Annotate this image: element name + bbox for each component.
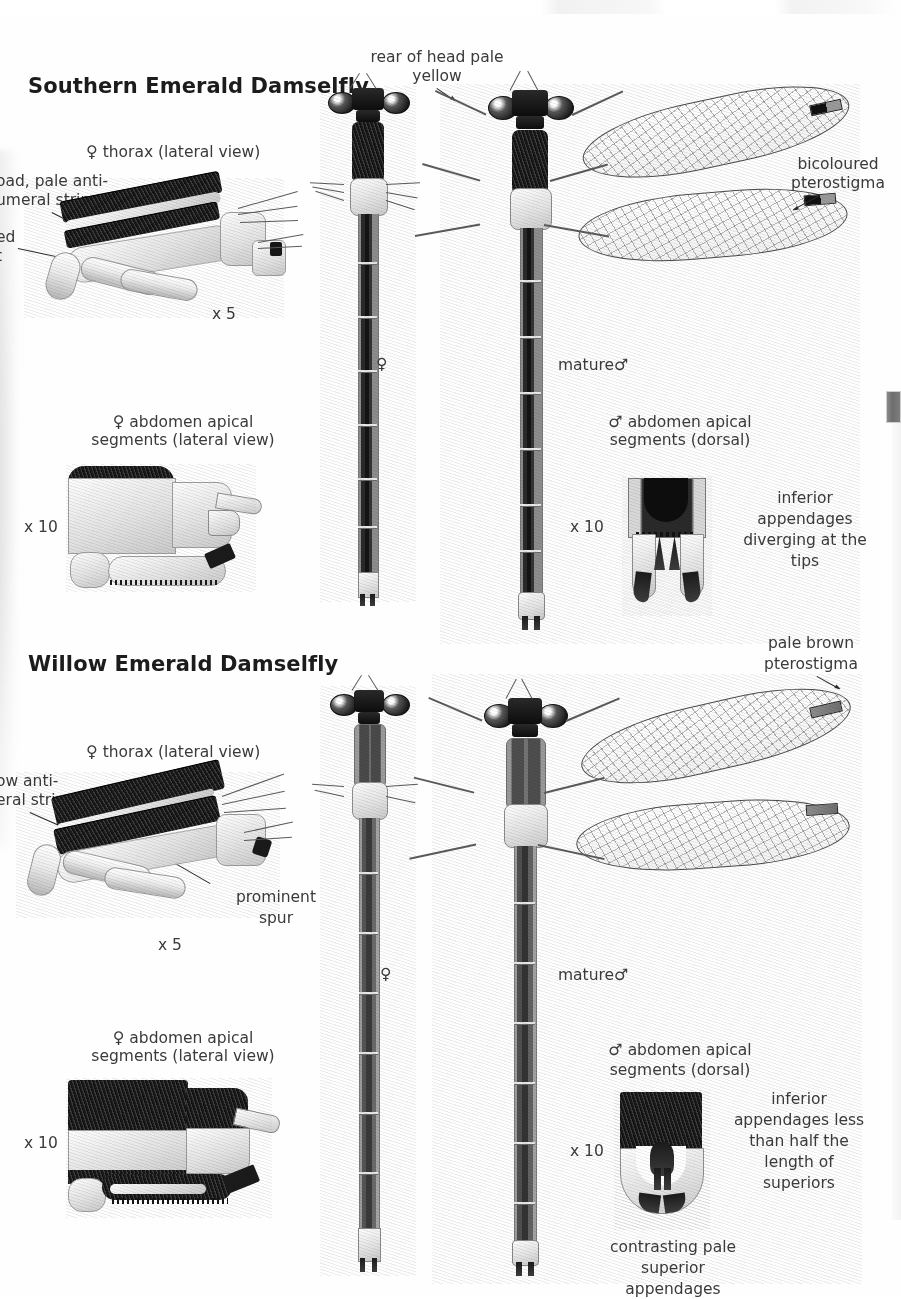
scale-willow-male-apical: x 10 [570, 1142, 604, 1160]
label-rear-of-head-line1: rear of head pale [352, 48, 522, 67]
note-willow-superior-line3: appendages [570, 1280, 776, 1299]
label-southern-pterostigma-line1: bicoloured [778, 155, 898, 174]
caption-southern-thorax: ♀ thorax (lateral view) [86, 142, 260, 162]
scan-artifact-left-smudge [0, 150, 24, 850]
caption-willow-female-apical-text: abdomen apical [129, 1029, 253, 1047]
scale-willow-female-apical: x 10 [24, 1134, 58, 1152]
note-willow-superior-line1: contrasting pale [570, 1238, 776, 1257]
male-symbol: ♂ [608, 412, 622, 431]
label-southern-pterostigma-line2: pterostigma [778, 174, 898, 193]
caption-willow-male-apical-line1: ♂ abdomen apical [570, 1040, 790, 1060]
note-willow-appendages-line3: than half the [700, 1132, 898, 1151]
male-symbol: ♂ [614, 355, 628, 374]
label-willow-mature-male-text: mature [558, 966, 614, 984]
label-southern-female-symbol: ♀ [376, 355, 387, 374]
female-symbol: ♀ [113, 1028, 125, 1047]
label-willow-pterostigma-line1: pale brown [736, 634, 886, 653]
male-symbol: ♂ [614, 965, 628, 984]
caption-southern-male-apical-text: abdomen apical [628, 413, 752, 431]
caption-willow-female-apical-line2: segments (lateral view) [68, 1047, 298, 1066]
caption-southern-thorax-text: thorax (lateral view) [103, 143, 261, 161]
note-willow-appendages-line1: inferior [700, 1090, 898, 1109]
label-willow-mature-male: mature♂ [558, 965, 628, 985]
figure-southern-female-apical [66, 464, 256, 592]
scan-artifact-top-band [0, 0, 901, 14]
scrollbar-thumb[interactable] [886, 391, 901, 423]
note-southern-appendages-line2: appendages [712, 510, 898, 529]
scale-willow-thorax: x 5 [158, 936, 182, 954]
caption-willow-female-apical-line1: ♀ abdomen apical [68, 1028, 298, 1048]
caption-southern-male-apical-line2: segments (dorsal) [570, 431, 790, 450]
label-southern-mature-male: mature♂ [558, 355, 628, 375]
label-southern-spur-line2: t [0, 247, 2, 266]
note-southern-appendages-line3: diverging at the [712, 531, 898, 550]
note-willow-appendages-line2: appendages less [700, 1111, 898, 1130]
label-willow-pterostigma-line2: pterostigma [736, 655, 886, 674]
caption-southern-female-apical-line1: ♀ abdomen apical [68, 412, 298, 432]
figure-willow-male-apical [614, 1090, 710, 1230]
note-southern-appendages-line1: inferior [712, 489, 898, 508]
note-willow-appendages-line5: superiors [700, 1174, 898, 1193]
scale-southern-male-apical: x 10 [570, 518, 604, 536]
note-willow-appendages-line4: length of [700, 1153, 898, 1172]
caption-southern-female-apical-text: abdomen apical [129, 413, 253, 431]
caption-willow-male-apical-text: abdomen apical [628, 1041, 752, 1059]
female-symbol: ♀ [113, 412, 125, 431]
caption-southern-female-apical-line2: segments (lateral view) [68, 431, 298, 450]
male-symbol: ♂ [608, 1040, 622, 1059]
section-title-southern: Southern Emerald Damselfly [28, 74, 369, 98]
section-title-willow: Willow Emerald Damselfly [28, 652, 338, 676]
figure-willow-female-thorax [16, 772, 280, 918]
label-southern-spur-line1: ed [0, 228, 15, 247]
label-willow-female-symbol: ♀ [380, 965, 391, 984]
caption-willow-thorax-text: thorax (lateral view) [103, 743, 261, 761]
scale-southern-female-apical: x 10 [24, 518, 58, 536]
label-southern-mature-male-text: mature [558, 356, 614, 374]
figure-willow-female-dorsal [320, 686, 416, 1276]
figure-southern-female-dorsal [320, 86, 416, 602]
note-willow-superior-line2: superior [570, 1259, 776, 1278]
caption-willow-male-apical-line2: segments (dorsal) [570, 1061, 790, 1080]
female-symbol: ♀ [86, 742, 98, 761]
note-southern-appendages-line4: tips [712, 552, 898, 571]
figure-southern-male-apical [622, 476, 712, 616]
caption-southern-male-apical-line1: ♂ abdomen apical [570, 412, 790, 432]
female-symbol: ♀ [86, 142, 98, 161]
figure-willow-female-apical [66, 1078, 272, 1218]
figure-southern-female-thorax [24, 178, 284, 318]
caption-willow-thorax: ♀ thorax (lateral view) [86, 742, 260, 762]
